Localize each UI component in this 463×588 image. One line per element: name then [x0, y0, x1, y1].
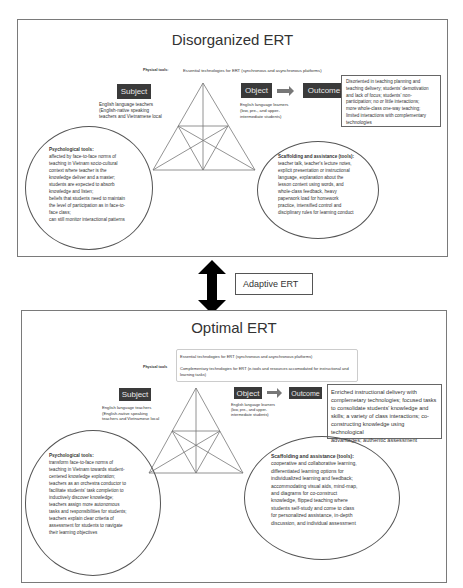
activity-triangle-diagram: [148, 80, 268, 200]
double-headed-arrow-icon: [197, 260, 227, 314]
outcome-box: Outcome: [303, 83, 345, 98]
object-description: English language learners (low, pre-, an…: [240, 102, 310, 121]
outcome-box: Outcome: [289, 387, 322, 399]
scaffolding-text: Scaffolding and assistance (tools): teac…: [278, 153, 368, 216]
optimal-ert-panel: Optimal ERT Physical tools Essential tec…: [21, 310, 447, 583]
psychological-tools-text: Psychological tools: affected by face-to…: [49, 146, 149, 223]
physical-tools-item-complementary: Complementary technologies for ERT (e-to…: [180, 366, 350, 378]
disorganized-ert-panel: Disorganized ERT Physical tools: Essenti…: [17, 19, 448, 257]
outcome-description-box: Enriched instructional delivery with com…: [327, 384, 442, 439]
object-box: Object: [241, 83, 272, 98]
subject-description: English language teachers (English-nativ…: [102, 405, 182, 422]
subject-box: Subject: [119, 388, 151, 401]
psychological-tools-text: Psychological tools: transform face-to-f…: [49, 452, 159, 536]
object-description: English language learners (low, pre-, an…: [231, 403, 301, 418]
panel-title: Disorganized ERT: [18, 31, 447, 48]
subject-box: Subject: [117, 84, 151, 99]
arrow-right-icon: [267, 391, 277, 394]
subject-description: English language teachers (English-nativ…: [99, 102, 179, 121]
object-box: Object: [234, 387, 262, 399]
physical-tools-text: Essential technologies for ERT (synchron…: [183, 68, 322, 73]
physical-tools-item-essential: Essential technologies for ERT (synchron…: [180, 354, 355, 359]
outcome-description-box: Disoriented in teaching planning and tea…: [341, 75, 441, 127]
scaffolding-text: Scaffolding and assistance (tools): coop…: [271, 453, 386, 527]
physical-tools-label: Physical tools: [143, 365, 167, 369]
adaptive-ert-label: Adaptive ERT: [235, 273, 313, 295]
physical-tools-label: Physical tools:: [143, 68, 168, 72]
panel-title: Optimal ERT: [22, 319, 446, 336]
activity-triangle-diagram: [141, 385, 261, 495]
arrow-right-icon: [277, 89, 289, 93]
